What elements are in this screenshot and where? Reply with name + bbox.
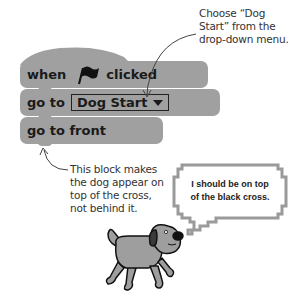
dropdown-arrow-icon <box>147 34 196 96</box>
front-callout: This block makes the dog appear on top o… <box>70 163 164 215</box>
speech-bubble-text: I should be on top of the black cross. <box>178 178 282 204</box>
dog-sprite-icon <box>100 222 185 297</box>
